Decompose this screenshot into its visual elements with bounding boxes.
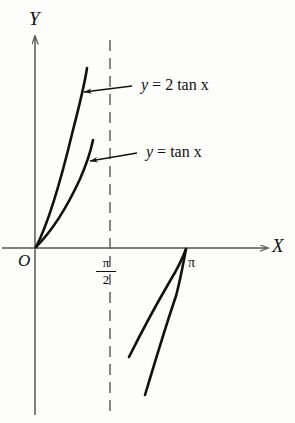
curve-tangent-lower bbox=[145, 249, 186, 395]
curve-double-tangent-upper bbox=[36, 68, 87, 247]
leader-tangent bbox=[90, 153, 137, 161]
curve-label-double-tangent: y = 2 tan x bbox=[141, 77, 209, 93]
tangent-expression: tan x bbox=[170, 143, 202, 160]
tick-label-pi: π bbox=[188, 256, 195, 270]
half-pi-denominator: 2 bbox=[96, 273, 116, 287]
half-pi-numerator: π bbox=[96, 256, 116, 270]
tangent-equals: = bbox=[157, 143, 166, 160]
x-axis-label: X bbox=[272, 236, 284, 255]
double-tangent-equals: = bbox=[152, 76, 161, 93]
tangent-y: y bbox=[146, 143, 153, 160]
plot-canvas bbox=[0, 0, 295, 423]
curve-label-tangent: y = tan x bbox=[146, 144, 202, 160]
tick-label-half-pi: π 2 bbox=[96, 256, 116, 286]
double-tangent-y: y bbox=[141, 76, 148, 93]
double-tangent-expression: 2 tan x bbox=[165, 76, 209, 93]
y-axis-label: Y bbox=[29, 9, 40, 28]
origin-label: O bbox=[18, 252, 30, 269]
curve-double-tangent-lower bbox=[129, 249, 186, 357]
tangent-function-figure: Y X O π 2 π y = 2 tan x y = tan x bbox=[0, 0, 295, 423]
leader-double-tangent bbox=[84, 86, 132, 92]
